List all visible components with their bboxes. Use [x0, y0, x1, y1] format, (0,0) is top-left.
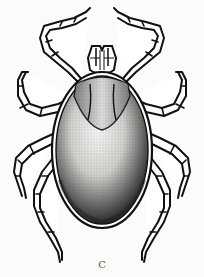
figure-caption: C — [0, 259, 204, 270]
tick-body — [52, 72, 152, 228]
tick-illustration — [0, 0, 204, 277]
capitulum — [88, 46, 116, 74]
leg-front-right — [114, 8, 164, 84]
leg-front-left — [40, 8, 90, 84]
